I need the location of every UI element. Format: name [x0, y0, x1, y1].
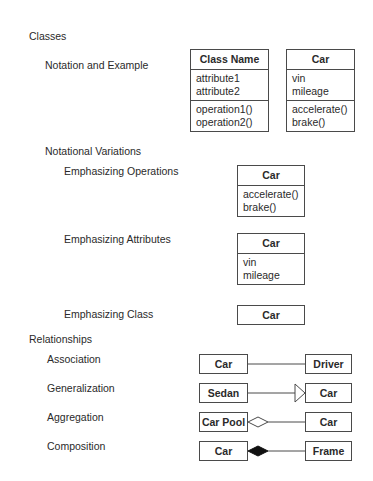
- composition-to: Frame: [305, 441, 352, 461]
- generalization-to: Car: [305, 383, 352, 403]
- association-from: Car: [199, 354, 248, 374]
- composition-from: Car: [199, 441, 248, 461]
- generalization-triangle-icon: [295, 384, 305, 402]
- aggregation-to: Car: [305, 412, 352, 432]
- composition-diamond-icon: [248, 446, 268, 456]
- aggregation-diamond-icon: [248, 417, 268, 427]
- relationship-connectors: [0, 0, 373, 481]
- aggregation-from: Car Pool: [199, 412, 248, 432]
- association-to: Driver: [305, 354, 352, 374]
- generalization-from: Sedan: [199, 383, 248, 403]
